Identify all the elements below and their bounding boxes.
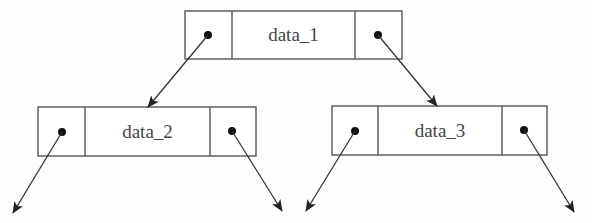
pointer-arrow-n3-left bbox=[306, 131, 355, 211]
pointer-arrow-n2-right bbox=[232, 131, 282, 211]
node-label: data_1 bbox=[268, 24, 319, 45]
tree-diagram: data_1data_2data_3 bbox=[0, 0, 592, 223]
pointer-arrow-n1-left bbox=[148, 35, 208, 107]
pointer-arrow-n3-right bbox=[524, 130, 574, 212]
tree-svg: data_1data_2data_3 bbox=[0, 0, 592, 223]
tree-node-n2: data_2 bbox=[38, 107, 256, 156]
pointer-arrow-n1-right bbox=[378, 35, 437, 106]
node-label: data_3 bbox=[415, 120, 466, 141]
nodes: data_1data_2data_3 bbox=[38, 11, 547, 156]
node-label: data_2 bbox=[122, 121, 173, 142]
tree-node-n3: data_3 bbox=[332, 106, 547, 155]
tree-node-n1: data_1 bbox=[185, 11, 402, 59]
